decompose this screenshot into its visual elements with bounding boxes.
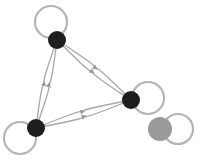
node-C (27, 119, 45, 137)
graph-diagram (0, 0, 203, 163)
node-A (48, 31, 66, 49)
edge-B-C (36, 100, 131, 128)
node-D (148, 117, 172, 141)
edge-C-B (36, 100, 131, 128)
edge-C-A (36, 40, 57, 128)
edge-A-C (36, 40, 57, 128)
node-B (122, 91, 140, 109)
edge-A-B (57, 40, 131, 100)
edge-B-A (57, 40, 131, 100)
